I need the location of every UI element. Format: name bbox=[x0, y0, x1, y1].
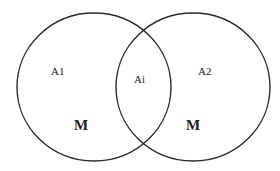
left-set-label: A1 bbox=[51, 65, 64, 77]
right-circle bbox=[116, 13, 270, 161]
intersection-label: Ai bbox=[134, 73, 145, 85]
right-set-sublabel: M bbox=[186, 117, 200, 133]
left-circle bbox=[17, 13, 171, 161]
venn-diagram: A1 M Ai A2 M bbox=[0, 0, 280, 171]
right-set-label: A2 bbox=[198, 65, 211, 77]
left-set-sublabel: M bbox=[74, 117, 88, 133]
